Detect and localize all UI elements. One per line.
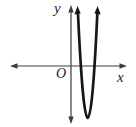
x-axis-right-arrowhead-icon — [120, 63, 128, 68]
y-axis-label: y — [54, 1, 61, 16]
y-axis-bottom-arrowhead-icon — [68, 117, 73, 125]
parabola-left-branch-arrowhead-icon — [74, 6, 80, 14]
x-axis-left-arrowhead-icon — [10, 63, 18, 68]
parabola-graph-figure: y x O — [0, 0, 136, 127]
y-axis-top-arrowhead-icon — [68, 5, 73, 13]
graph-canvas — [0, 0, 136, 127]
parabola-right-branch-arrowhead-icon — [94, 6, 100, 14]
x-axis-label: x — [117, 70, 124, 85]
origin-label: O — [56, 67, 66, 81]
